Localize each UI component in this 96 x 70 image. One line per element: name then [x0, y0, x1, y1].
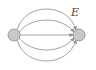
edge-arc-bottom-inner [19, 38, 74, 50]
node-right [73, 29, 85, 41]
edge-arc-bottom-outer [17, 40, 76, 61]
edge-label: E [70, 6, 79, 19]
multigraph-diagram: E [0, 0, 96, 70]
edge-arc-top-outer [17, 9, 76, 30]
edge-arc-top-inner [19, 20, 74, 32]
node-left [8, 29, 20, 41]
